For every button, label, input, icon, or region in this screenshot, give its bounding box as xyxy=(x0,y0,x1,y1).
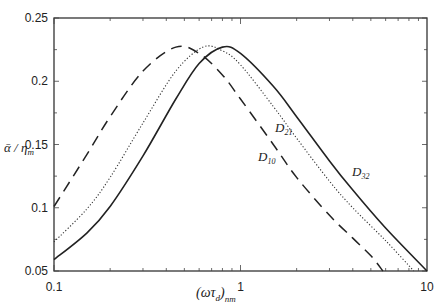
tick-labels: 0.050.10.150.20.250.1110 xyxy=(25,11,434,294)
plot-border xyxy=(54,18,427,271)
series-label-d32: D32 xyxy=(351,164,369,181)
curve-d32 xyxy=(54,46,427,271)
y-tick-label: 0.2 xyxy=(31,74,48,88)
plot-frame xyxy=(54,18,427,271)
series-label-d10: D10 xyxy=(257,149,275,166)
y-tick-label: 0.1 xyxy=(31,201,48,215)
x-tick-label: 1 xyxy=(237,280,244,294)
axis-ticks xyxy=(54,18,427,271)
curve-d21 xyxy=(54,46,414,271)
curves xyxy=(54,46,427,271)
curve-d10 xyxy=(54,46,383,271)
y-tick-label: 0.05 xyxy=(25,264,49,278)
chart: 0.050.10.150.20.250.1110 ᾱ / ηm (ωτd)nm … xyxy=(0,0,443,308)
x-tick-label: 0.1 xyxy=(46,280,63,294)
series-label-d21: D21 xyxy=(274,120,292,137)
y-tick-label: 0.25 xyxy=(25,11,49,25)
x-axis-label: (ωτd)nm xyxy=(196,285,236,304)
x-tick-label: 10 xyxy=(420,280,434,294)
